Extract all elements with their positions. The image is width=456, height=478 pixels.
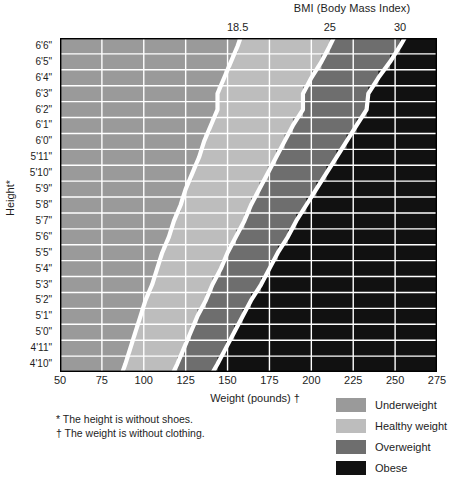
band-underweight xyxy=(60,324,135,340)
x-tick-label: 150 xyxy=(208,374,248,386)
band-underweight xyxy=(60,245,162,261)
band-underweight xyxy=(60,38,238,54)
legend-swatch xyxy=(336,419,366,433)
y-tick-label: 6'0" xyxy=(35,136,52,146)
band-underweight xyxy=(60,308,140,324)
y-tick-label: 6'2" xyxy=(35,105,52,115)
x-axis-title: Weight (pounds) † xyxy=(180,392,330,404)
x-tick-label: 250 xyxy=(375,374,415,386)
legend-row: Healthy weight xyxy=(336,415,456,436)
band-underweight xyxy=(60,118,211,134)
x-tick-label: 75 xyxy=(82,374,122,386)
band-underweight xyxy=(60,149,199,165)
legend-label: Overweight xyxy=(375,441,431,453)
footnote-weight: † The weight is without clothing. xyxy=(56,426,205,440)
band-underweight xyxy=(60,197,181,213)
bmi-boundary-label: 25 xyxy=(310,21,350,33)
footnotes: * The height is without shoes. † The wei… xyxy=(56,412,205,440)
y-axis-labels: 6'6"6'5"6'4"6'3"6'2"6'1"6'0"5'11"5'10"5'… xyxy=(0,38,56,372)
legend: UnderweightHealthy weightOverweightObese xyxy=(336,394,456,478)
x-tick-label: 175 xyxy=(249,374,289,386)
legend-row: Overweight xyxy=(336,436,456,457)
y-tick-label: 5'9" xyxy=(35,184,52,194)
band-underweight xyxy=(60,133,204,149)
band-underweight xyxy=(60,213,174,229)
y-tick-label: 4'10" xyxy=(30,359,52,369)
band-underweight xyxy=(60,54,231,70)
y-tick-label: 6'1" xyxy=(35,120,52,130)
y-tick-label: 6'4" xyxy=(35,73,52,83)
legend-row: Obese xyxy=(336,457,456,478)
chart-title: BMI (Body Mass Index) xyxy=(252,2,452,14)
y-tick-label: 5'6" xyxy=(35,232,52,242)
x-axis-labels: 5075100125150175200225250275 xyxy=(60,374,437,390)
band-underweight xyxy=(60,356,125,372)
x-tick-label: 275 xyxy=(417,374,456,386)
legend-swatch xyxy=(336,461,366,475)
legend-swatch xyxy=(336,398,366,412)
x-tick-label: 100 xyxy=(124,374,164,386)
y-tick-label: 6'5" xyxy=(35,57,52,67)
band-underweight xyxy=(60,86,218,102)
band-underweight xyxy=(60,70,224,86)
x-tick-label: 125 xyxy=(166,374,206,386)
band-underweight xyxy=(60,229,169,245)
y-tick-label: 5'1" xyxy=(35,311,52,321)
legend-label: Underweight xyxy=(375,399,437,411)
bmi-boundary-label: 18.5 xyxy=(218,21,258,33)
band-underweight xyxy=(60,165,192,181)
band-underweight xyxy=(60,102,218,118)
band-underweight xyxy=(60,292,145,308)
plot-area xyxy=(60,38,437,372)
footnote-height: * The height is without shoes. xyxy=(56,412,205,426)
y-tick-label: 5'4" xyxy=(35,264,52,274)
bmi-boundary-label: 30 xyxy=(380,21,420,33)
y-tick-label: 6'6" xyxy=(35,41,52,51)
band-underweight xyxy=(60,340,130,356)
x-tick-label: 200 xyxy=(291,374,331,386)
y-tick-label: 4'11" xyxy=(31,343,52,353)
band-underweight xyxy=(60,261,157,277)
legend-row: Underweight xyxy=(336,394,456,415)
y-tick-label: 5'10" xyxy=(30,168,52,178)
y-tick-label: 5'3" xyxy=(35,280,52,290)
legend-label: Healthy weight xyxy=(375,420,447,432)
y-tick-label: 5'7" xyxy=(35,216,52,226)
legend-label: Obese xyxy=(375,462,407,474)
x-tick-label: 225 xyxy=(333,374,373,386)
y-tick-label: 5'8" xyxy=(35,200,52,210)
band-underweight xyxy=(60,181,186,197)
legend-swatch xyxy=(336,440,366,454)
bmi-band-graphic xyxy=(60,38,437,372)
y-tick-label: 5'2" xyxy=(35,295,52,305)
y-tick-label: 5'0" xyxy=(35,327,52,337)
y-tick-label: 6'3" xyxy=(35,89,52,99)
y-tick-label: 5'11" xyxy=(31,152,52,162)
x-tick-label: 50 xyxy=(40,374,80,386)
y-tick-label: 5'5" xyxy=(35,248,52,258)
band-underweight xyxy=(60,277,152,293)
